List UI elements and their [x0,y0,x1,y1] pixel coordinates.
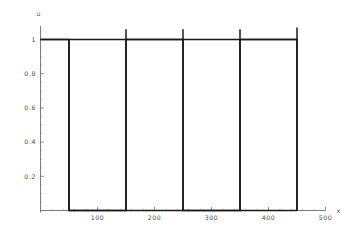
x-tick-label: 400 [262,214,276,221]
y-tick-label: 0.8 [24,70,36,77]
x-tick-label: 300 [205,214,219,221]
x-tick-label: 500 [319,214,333,221]
y-tick-label: 0.2 [24,173,36,180]
x-tick-label: 100 [91,214,105,221]
x-axis-ticks: 100200300400500 [52,207,332,221]
y-tick-label: 0.6 [24,104,36,111]
plot-figure: 10020030040050010.80.60.40.2ux [0,0,358,240]
y-axis-label: u [37,10,41,18]
x-tick-label: 200 [148,214,162,221]
data-curve [41,40,298,211]
plot-canvas: 10020030040050010.80.60.40.2ux [0,0,358,240]
y-tick-label: 0.4 [24,138,36,145]
data-series-group [41,28,298,211]
x-axis-label: x [336,207,340,215]
axis-labels-group: ux [37,10,341,215]
y-tick-label: 1 [31,36,36,43]
y-axis-ticks: 10.80.60.40.2 [24,31,44,202]
